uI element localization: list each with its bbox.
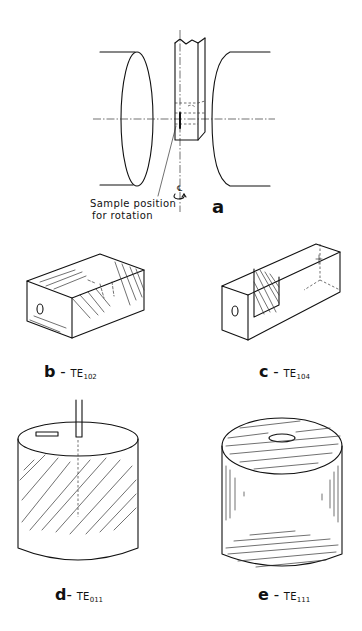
cavity-b-front-face bbox=[27, 281, 72, 338]
sample-leader-line bbox=[158, 126, 176, 196]
iris-dashed bbox=[188, 105, 195, 107]
panel-a-drawing bbox=[93, 30, 275, 212]
panel-c-label: c - TE104 bbox=[259, 362, 310, 381]
panel-b-label: b - TE102 bbox=[44, 362, 97, 381]
panel-d-letter: d bbox=[55, 585, 66, 604]
panel-b-mode: TE bbox=[70, 368, 83, 379]
panel-e-mode: TE bbox=[284, 591, 297, 602]
figure-drawing bbox=[0, 0, 362, 631]
cavity-d-sample-tube bbox=[76, 400, 82, 437]
cavity-c-top-face bbox=[222, 244, 340, 295]
centerline-symbol: ℄ bbox=[177, 183, 183, 194]
cavity-c-front-face bbox=[222, 286, 248, 340]
panel-c-mode: TE bbox=[283, 368, 296, 379]
panel-a-letter: a bbox=[212, 196, 224, 217]
cavity-section-dashed bbox=[175, 101, 205, 103]
panel-b-mode-index: 102 bbox=[83, 373, 96, 381]
panel-b-drawing bbox=[27, 254, 144, 338]
panel-c-mode-index: 104 bbox=[296, 373, 309, 381]
panel-a-caption-line1: Sample position bbox=[90, 198, 176, 209]
panel-e-letter: e bbox=[258, 585, 269, 604]
cavity-d-iris-slot bbox=[36, 432, 58, 436]
panel-e-drawing bbox=[222, 418, 342, 567]
cavity-c-iris-hole bbox=[232, 306, 238, 316]
panel-d-mode: TE bbox=[77, 591, 90, 602]
cavity-b-iris-hole bbox=[37, 304, 43, 314]
cavity-b-hatching bbox=[30, 262, 144, 332]
panel-d-mode-index: 011 bbox=[90, 596, 103, 604]
panel-d-label: d- TE011 bbox=[55, 585, 103, 604]
panel-d-drawing bbox=[18, 400, 138, 560]
cavity-top-broken-edge bbox=[175, 38, 205, 44]
cavity-e-top-ellipse bbox=[222, 418, 342, 474]
cavity-c-hidden-edges bbox=[304, 244, 340, 290]
panel-a-caption-line2: for rotation bbox=[92, 210, 153, 221]
cavity-e-top-hatching bbox=[226, 421, 340, 469]
cavity-e-bottom-hatching bbox=[226, 531, 338, 567]
cavity-e-body bbox=[222, 446, 342, 566]
panel-b-letter: b bbox=[44, 362, 55, 381]
panel-e-label: e - TE111 bbox=[258, 585, 310, 604]
panel-e-mode-index: 111 bbox=[297, 596, 310, 604]
panel-c-drawing bbox=[222, 244, 340, 340]
